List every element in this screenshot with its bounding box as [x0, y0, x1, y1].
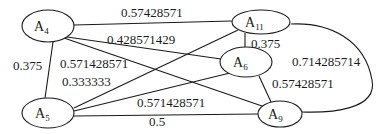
- node-a6: A6: [220, 47, 272, 77]
- edge-a4-a5: [45, 42, 53, 98]
- node-a11: A11: [232, 10, 290, 34]
- node-a9: A9: [258, 101, 302, 127]
- edge-label-a5-a6: 0.571428571: [137, 95, 205, 110]
- edge-label-a4-a11: 0.57428571: [121, 5, 183, 20]
- node-a4: A4: [22, 10, 74, 42]
- edge-label-a6-a9: 0.57428571: [272, 76, 334, 91]
- edge-a5-a9: [74, 114, 258, 116]
- graph-canvas: 0.57428571 0.428571429 0.571428571 0.375…: [0, 0, 392, 134]
- edge-label-a11-a9: 0.714285714: [292, 54, 361, 69]
- edge-label-a4-a9: 0.571428571: [60, 56, 128, 71]
- edge-label-a5-a11: 0.333333: [62, 74, 111, 89]
- node-a5: A5: [22, 98, 74, 128]
- edge-a4-a11: [74, 21, 232, 25]
- edge-label-a4-a5: 0.375: [13, 58, 42, 73]
- edge-label-a4-a6: 0.428571429: [107, 32, 175, 47]
- edge-a6-a9: [259, 76, 271, 102]
- edge-label-a5-a9: 0.5: [149, 114, 165, 129]
